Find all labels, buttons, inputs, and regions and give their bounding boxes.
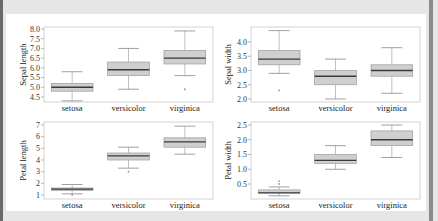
y-tick-label: 5.5 <box>30 73 40 82</box>
outlier-point <box>278 183 280 185</box>
y-tick-label: 2.0 <box>237 95 247 104</box>
y-tick-label: 6.0 <box>30 64 40 73</box>
x-category-label: virginica <box>170 103 200 113</box>
x-category-label: versicolor <box>112 103 146 113</box>
outlier-point <box>128 171 130 173</box>
y-tick-label: 4.0 <box>237 38 247 47</box>
outlier-point <box>71 194 73 196</box>
y-tick-label: 3 <box>36 167 40 176</box>
y-tick-label: 6 <box>36 132 40 141</box>
y-tick-label: 5 <box>36 144 40 153</box>
box-iqr <box>258 51 300 65</box>
y-axis-label: Petal length <box>18 140 28 181</box>
box-iqr <box>371 131 413 146</box>
x-category-label: virginica <box>170 200 200 210</box>
y-tick-label: 5.0 <box>30 83 40 92</box>
outlier-point <box>278 180 280 182</box>
boxplot-figure: 4.55.05.56.06.57.07.58.0Sepal lengthseto… <box>0 0 438 221</box>
x-category-label: setosa <box>62 200 83 210</box>
y-tick-label: 4 <box>36 156 40 165</box>
y-tick-label: 1.0 <box>237 165 247 174</box>
x-category-label: versicolor <box>112 200 146 210</box>
y-tick-label: 2 <box>36 179 40 188</box>
x-category-label: versicolor <box>319 200 353 210</box>
outlier-point <box>184 88 186 90</box>
outlier-point <box>278 90 280 92</box>
y-tick-label: 7.0 <box>30 44 40 53</box>
box-iqr <box>108 62 150 76</box>
y-tick-label: 7.5 <box>30 35 40 44</box>
y-tick-label: 2.0 <box>237 136 247 145</box>
box-iqr <box>315 71 357 85</box>
x-category-label: versicolor <box>319 103 353 113</box>
y-axis-label: Sepal length <box>18 43 28 86</box>
x-category-label: setosa <box>269 200 290 210</box>
y-tick-label: 7 <box>36 121 40 130</box>
x-category-label: virginica <box>377 103 407 113</box>
x-category-label: setosa <box>269 103 290 113</box>
y-tick-label: 2.5 <box>237 81 247 90</box>
y-tick-label: 1 <box>36 191 40 200</box>
y-tick-label: 1.5 <box>237 150 247 159</box>
box-iqr <box>315 155 357 164</box>
y-tick-label: 0.5 <box>237 180 247 189</box>
y-tick-label: 3.5 <box>237 52 247 61</box>
y-tick-label: 4.5 <box>30 93 40 102</box>
x-category-label: setosa <box>62 103 83 113</box>
y-axis-label: Sepal width <box>223 44 233 85</box>
y-tick-label: 6.5 <box>30 54 40 63</box>
x-category-label: virginica <box>377 200 407 210</box>
y-tick-label: 2.5 <box>237 121 247 130</box>
y-axis-label: Petal width <box>223 141 233 180</box>
y-tick-label: 3.0 <box>237 66 247 75</box>
y-tick-label: 8.0 <box>30 25 40 34</box>
box-iqr <box>164 50 206 64</box>
